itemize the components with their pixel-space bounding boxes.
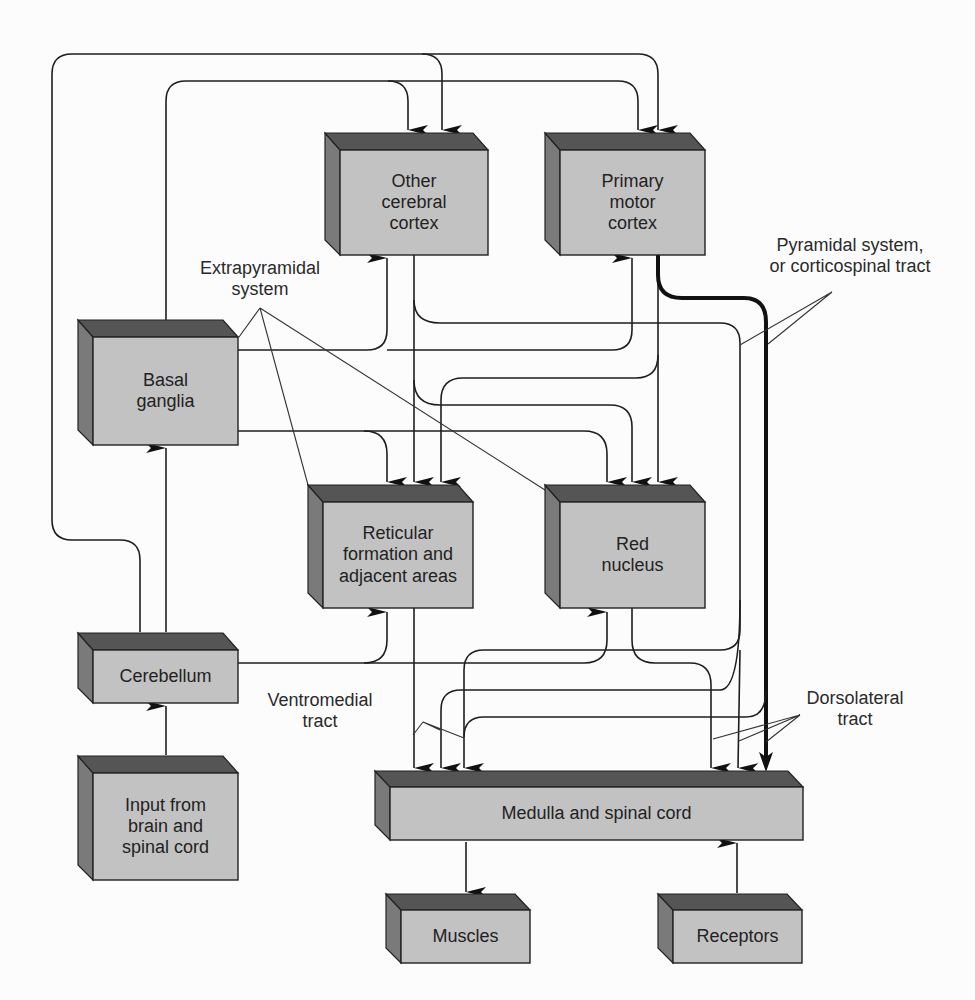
annotation-ventromedial-tract: Ventromedial tract	[255, 690, 385, 732]
annotation-dorsolateral-tract: Dorsolateral tract	[790, 688, 920, 730]
label-muscles: Muscles	[401, 910, 530, 963]
label-receptors: Receptors	[673, 910, 802, 963]
label-medulla-and-spinal-cord: Medulla and spinal cord	[390, 787, 803, 840]
diagram-canvas: Other cerebral cortex Primary motor cort…	[0, 0, 975, 1000]
label-input-from-brain: Input from brain and spinal cord	[93, 773, 238, 880]
label-red-nucleus: Red nucleus	[560, 502, 705, 608]
label-primary-motor-cortex: Primary motor cortex	[560, 150, 705, 255]
label-reticular-formation: Reticular formation and adjacent areas	[323, 502, 473, 608]
annotation-pyramidal-system: Pyramidal system, or corticospinal tract	[730, 235, 970, 277]
label-other-cerebral-cortex: Other cerebral cortex	[340, 150, 488, 255]
annotation-extrapyramidal-system: Extrapyramidal system	[185, 258, 335, 300]
label-basal-ganglia: Basal ganglia	[93, 337, 238, 445]
label-cerebellum: Cerebellum	[93, 650, 238, 703]
